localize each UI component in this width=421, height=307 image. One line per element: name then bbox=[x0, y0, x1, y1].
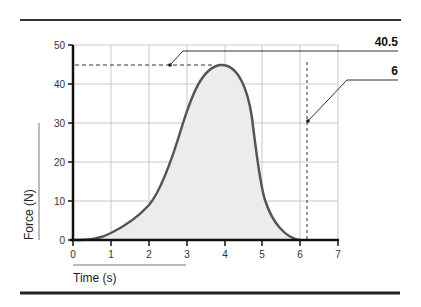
force-time-chart: 40.5 6 50 40 30 20 10 0 0 1 2 3 4 5 6 7 … bbox=[0, 0, 421, 307]
annotation-peak-value: 40.5 bbox=[375, 35, 399, 49]
x-tick-label: 1 bbox=[108, 249, 114, 260]
x-tick-label: 7 bbox=[335, 249, 341, 260]
x-tick-label: 6 bbox=[297, 249, 303, 260]
y-tick-label: 0 bbox=[59, 235, 65, 246]
leader-time bbox=[306, 80, 398, 123]
y-tick-label: 10 bbox=[54, 196, 66, 207]
x-tick-label: 5 bbox=[259, 249, 265, 260]
x-tick-label: 2 bbox=[146, 249, 152, 260]
annotation-time-value: 6 bbox=[391, 64, 398, 78]
y-tick-label: 20 bbox=[54, 157, 66, 168]
x-tick-label: 4 bbox=[222, 249, 228, 260]
y-axis-title: Force (N) bbox=[22, 189, 36, 240]
leader-peak bbox=[168, 51, 398, 67]
x-tick-label: 0 bbox=[70, 249, 76, 260]
x-tick-label: 3 bbox=[184, 249, 190, 260]
y-tick-label: 40 bbox=[54, 79, 66, 90]
y-tick-label: 30 bbox=[54, 118, 66, 129]
x-axis-title: Time (s) bbox=[73, 271, 117, 285]
y-tick-label: 50 bbox=[54, 40, 66, 51]
